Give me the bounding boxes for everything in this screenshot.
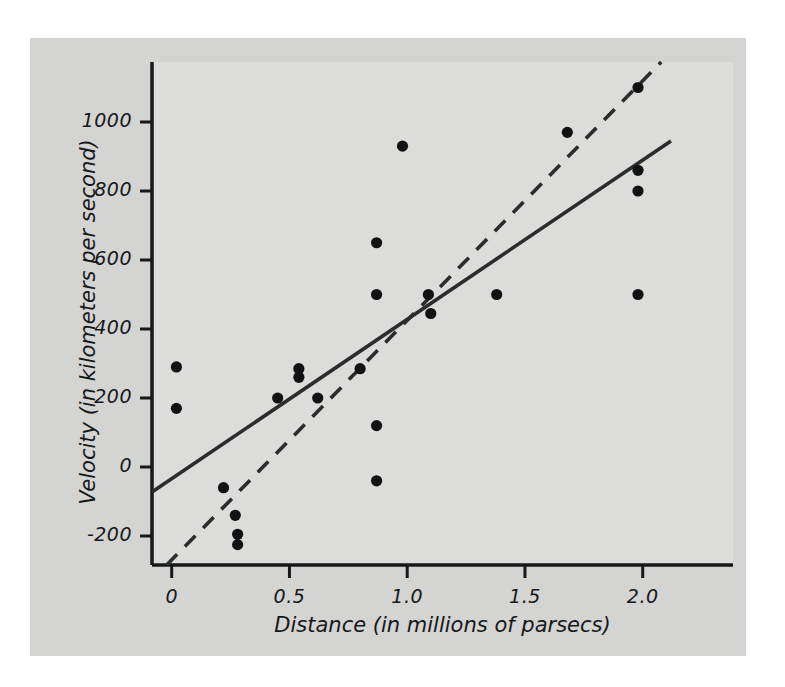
data-point — [632, 82, 643, 93]
data-point — [355, 363, 366, 374]
data-point — [272, 392, 283, 403]
data-point — [397, 141, 408, 152]
data-point — [632, 165, 643, 176]
data-point — [562, 127, 573, 138]
data-point — [232, 539, 243, 550]
axis-ticks — [140, 122, 643, 578]
data-point — [491, 289, 502, 300]
data-point — [423, 289, 434, 300]
data-point — [371, 475, 382, 486]
x-axis-title: Distance (in millions of parsecs) — [152, 613, 733, 637]
hubble-velocity-distance-figure: -20002004006008001000 00.51.01.52.0 Dist… — [0, 0, 785, 687]
data-point — [293, 372, 304, 383]
data-point — [371, 289, 382, 300]
y-tick-label: 0 — [119, 454, 132, 476]
x-tick-label: 0.5 — [249, 585, 329, 607]
scatter-chart — [0, 0, 785, 687]
x-tick-label: 1.0 — [367, 585, 447, 607]
data-point — [171, 361, 182, 372]
data-point — [232, 529, 243, 540]
data-point — [371, 420, 382, 431]
data-point — [632, 289, 643, 300]
regression-lines — [152, 62, 671, 565]
x-tick-label: 1.5 — [485, 585, 565, 607]
data-point — [171, 403, 182, 414]
y-axis-title: Velocity (in kilometers per second) — [76, 112, 100, 532]
data-point — [632, 185, 643, 196]
data-point — [218, 482, 229, 493]
dashed-regression-line — [167, 62, 662, 565]
x-tick-label: 2.0 — [603, 585, 683, 607]
x-tick-label: 0 — [132, 585, 212, 607]
data-point — [371, 237, 382, 248]
data-point — [312, 392, 323, 403]
data-point — [230, 510, 241, 521]
data-point — [425, 308, 436, 319]
